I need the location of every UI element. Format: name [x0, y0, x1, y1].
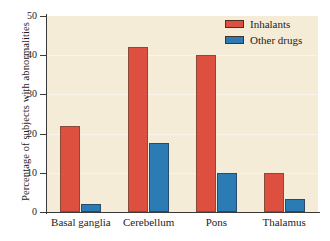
x-tick-label: Pons [183, 216, 251, 228]
y-tick-label: 30 [0, 89, 37, 99]
y-tick-mark [40, 212, 47, 213]
y-tick-label: 10 [0, 168, 37, 178]
y-axis-title: Percentage of subjects with abnormalitie… [20, 12, 31, 212]
chart-legend: InhalantsOther drugs [225, 16, 302, 48]
legend-item-inhalants: Inhalants [225, 16, 302, 31]
y-tick-mark [40, 16, 47, 17]
bar-basal-ganglia-inhalants [60, 126, 80, 212]
x-tick-label: Cerebellum [115, 216, 183, 228]
y-tick-label: 50 [0, 11, 37, 21]
y-tick-mark [40, 94, 47, 95]
bar-thalamus-inhalants [264, 173, 284, 212]
bar-cerebellum-inhalants [128, 47, 148, 212]
legend-swatch-icon [225, 20, 244, 28]
x-tick-label: Basal ganglia [47, 216, 115, 228]
bar-cerebellum-other-drugs [149, 143, 169, 212]
y-tick-label: 0 [0, 207, 37, 217]
x-tick-label: Thalamus [250, 216, 318, 228]
bar-pons-other-drugs [217, 173, 237, 212]
bar-thalamus-other-drugs [285, 199, 305, 212]
bar-pons-inhalants [196, 55, 216, 212]
bar-chart: Percentage of subjects with abnormalitie… [0, 0, 330, 241]
legend-swatch-icon [225, 36, 244, 44]
y-tick-label: 20 [0, 129, 37, 139]
legend-label: Other drugs [250, 34, 302, 46]
y-tick-mark [40, 134, 47, 135]
bar-basal-ganglia-other-drugs [81, 204, 101, 212]
y-tick-mark [40, 55, 47, 56]
legend-label: Inhalants [250, 18, 290, 30]
y-tick-label: 40 [0, 50, 37, 60]
y-tick-mark [40, 173, 47, 174]
legend-item-other-drugs: Other drugs [225, 32, 302, 47]
x-axis-line [46, 212, 320, 213]
